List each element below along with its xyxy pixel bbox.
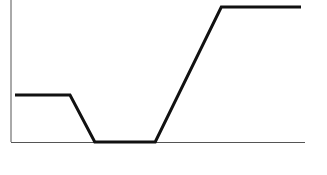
line-chart (0, 0, 327, 175)
data-series-line (15, 7, 301, 142)
